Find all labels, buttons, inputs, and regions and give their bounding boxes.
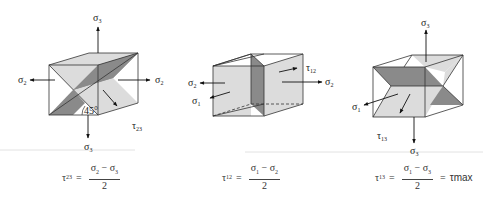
- eq-denominator: 2: [262, 180, 267, 192]
- eq-denominator: 2: [102, 180, 107, 192]
- label-sigma2-right: σ2: [155, 74, 163, 86]
- eq-lhs-sub: 23: [66, 174, 72, 180]
- eq-fraction: σ1 − σ3 2: [402, 162, 433, 192]
- label-sigma2-left: σ2: [18, 74, 26, 86]
- label-sigma3-bottom: σ3: [410, 145, 418, 157]
- eq-numerator: σ1 − σ3: [402, 162, 433, 180]
- eq-equals: =: [389, 172, 395, 183]
- equation-tau23: τ23 = σ2 − σ3 2: [62, 162, 123, 192]
- face-light-right: [264, 54, 303, 116]
- shear-plane-dark: [373, 67, 443, 86]
- label-tau23: τ23: [132, 120, 142, 132]
- cube-tau13: σ3 σ3 σ1 τ13: [352, 17, 463, 157]
- angle-label: 45°: [84, 105, 98, 116]
- equation-tau13: τ13 = σ1 − σ3 2 = τmax: [375, 162, 473, 192]
- label-tau12: τ12: [306, 62, 316, 74]
- eq-rhs-tau-max: τmax: [450, 172, 473, 183]
- eq-lhs-sub: 13: [379, 174, 385, 180]
- label-sigma3-top: σ3: [421, 17, 429, 29]
- label-sigma2-left: σ2: [188, 77, 196, 89]
- eq-lhs-sub: 12: [226, 174, 232, 180]
- eq-fraction: σ2 − σ3 2: [89, 162, 120, 192]
- cube-tau23: 45° σ3 σ3 σ2 σ2 τ23: [18, 12, 163, 153]
- label-sigma2-right: σ2: [325, 76, 333, 88]
- eq-equals-2: =: [440, 172, 446, 183]
- label-sigma3-bottom: σ3: [84, 141, 92, 153]
- eq-denominator: 2: [415, 180, 420, 192]
- eq-numerator: σ1 − σ2: [249, 162, 280, 180]
- eq-numerator: σ2 − σ3: [89, 162, 120, 180]
- equation-tau12: τ12 = σ1 − σ2 2: [222, 162, 283, 192]
- eq-equals: =: [236, 172, 242, 183]
- eq-equals: =: [76, 172, 82, 183]
- eq-fraction: σ1 − σ2 2: [249, 162, 280, 192]
- label-sigma1-front: σ1: [352, 101, 360, 113]
- label-sigma3-top: σ3: [93, 12, 101, 24]
- label-tau13: τ13: [377, 130, 387, 142]
- label-sigma1-front: σ1: [192, 95, 200, 107]
- cube-tau12: σ2 σ1 σ2 τ12: [188, 54, 333, 116]
